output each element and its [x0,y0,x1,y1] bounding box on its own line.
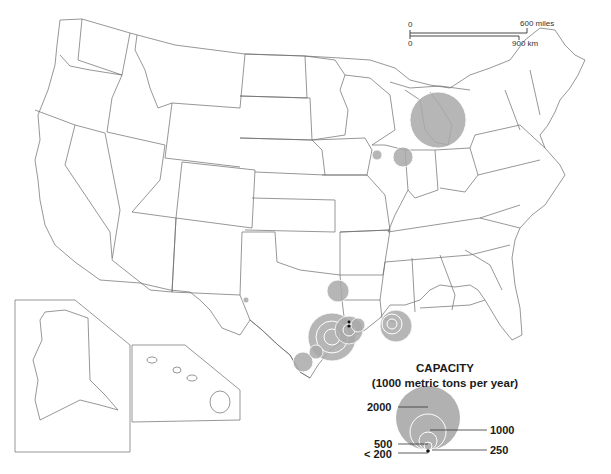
legend-title: CAPACITY [400,362,490,374]
legend-label-2000: 2000 [367,401,391,413]
scale-km-end: 900 km [512,39,538,48]
bubble-ne-texas [327,280,349,302]
capacity-bubbles [243,92,466,372]
legend-label-1000: 1000 [490,424,514,436]
bubble-illinois [372,150,382,160]
bubble-west-texas [243,297,249,303]
bubble-corpus-2 [309,345,323,359]
legend-symbols [396,386,487,453]
hawaii-inset [132,345,240,422]
alaska-inset [15,300,130,452]
scale-miles-start: 0 [408,20,412,29]
legend-label-lt200: < 200 [364,448,392,460]
bubble-beaumont [351,318,365,332]
scale-miles-end: 600 miles [520,19,554,28]
scale-km-start: 0 [408,39,412,48]
legend-subtitle: (1000 metric tons per year) [355,377,535,389]
bubble-michigan [410,92,466,148]
scale-bar [410,28,527,40]
state-boundaries [35,19,585,378]
legend-label-250: 250 [490,444,508,456]
us-map [0,0,611,474]
bubble-chicago [393,147,413,167]
